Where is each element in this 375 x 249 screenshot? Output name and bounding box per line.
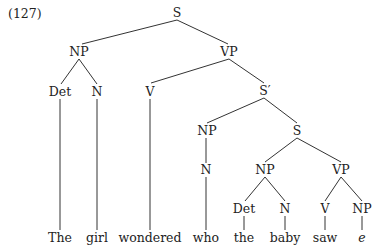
word-the: The bbox=[48, 231, 72, 245]
node-v-main: V bbox=[145, 85, 154, 99]
node-vp-embedded: VP bbox=[332, 163, 349, 177]
word-wondered: wondered bbox=[118, 231, 181, 245]
tree-edges bbox=[0, 0, 375, 249]
node-n-subject: N bbox=[92, 85, 103, 99]
node-np-subject: NP bbox=[69, 45, 88, 59]
node-v-embedded: V bbox=[320, 202, 329, 216]
node-np-trace: NP bbox=[352, 202, 371, 216]
word-saw: saw bbox=[313, 231, 338, 245]
word-who: who bbox=[193, 231, 219, 245]
word-baby: baby bbox=[270, 231, 301, 245]
word-trace-e: e bbox=[358, 231, 365, 245]
node-np-embedded-subject: NP bbox=[255, 163, 274, 177]
node-det-subject: Det bbox=[49, 85, 71, 99]
node-det-embedded: Det bbox=[233, 202, 255, 216]
node-n-wh: N bbox=[201, 163, 212, 177]
node-s-bar: S′ bbox=[259, 84, 270, 98]
node-vp-main: VP bbox=[220, 45, 237, 59]
node-np-wh: NP bbox=[197, 124, 216, 138]
word-girl: girl bbox=[86, 231, 108, 245]
node-s-embedded: S bbox=[293, 124, 302, 138]
word-the-embedded: the bbox=[234, 231, 254, 245]
node-s-root: S bbox=[173, 6, 182, 20]
node-n-embedded: N bbox=[280, 202, 291, 216]
